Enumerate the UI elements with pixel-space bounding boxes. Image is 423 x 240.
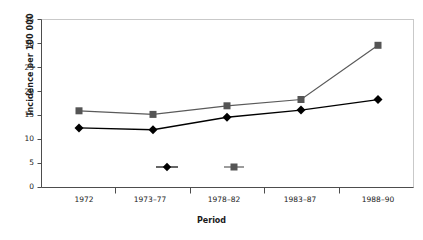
chart-figure: Incidence per 100 000 Period 35 30 25 20…	[0, 0, 423, 240]
y-tick-marks	[38, 20, 42, 188]
square-marker	[375, 42, 382, 49]
x-tick-marks	[116, 188, 340, 194]
square-marker	[224, 102, 231, 109]
square-marker	[231, 164, 238, 171]
square-marker	[76, 107, 83, 114]
square-marker	[298, 96, 305, 103]
square-marker	[150, 111, 157, 118]
chart-plot-area	[0, 0, 423, 240]
